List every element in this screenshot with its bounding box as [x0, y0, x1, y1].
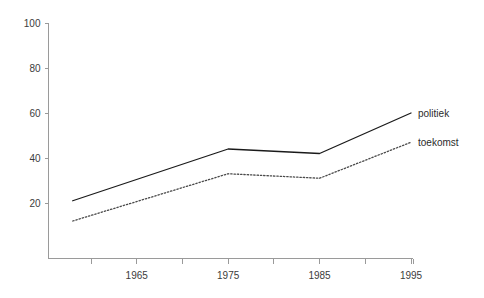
- y-tick-label: 20: [29, 198, 41, 209]
- x-tick-label: 1965: [126, 270, 149, 281]
- y-tick-label: 60: [29, 108, 41, 119]
- y-axis-ticks: 10080604020: [24, 18, 49, 209]
- series-line-toekomst: [73, 142, 411, 221]
- x-axis-group: 1965197519851995: [49, 259, 423, 281]
- x-tick-label: 1995: [400, 270, 423, 281]
- chart-container: 10080604020 1965197519851995 politiektoe…: [0, 0, 484, 298]
- x-axis-ticks: 1965197519851995: [91, 259, 423, 281]
- data-series-group: [73, 113, 411, 221]
- line-chart: 10080604020 1965197519851995 politiektoe…: [0, 0, 484, 298]
- series-label-politiek: politiek: [418, 108, 450, 119]
- y-tick-label: 40: [29, 153, 41, 164]
- y-tick-label: 100: [24, 18, 41, 29]
- y-tick-label: 80: [29, 63, 41, 74]
- series-line-politiek: [73, 113, 411, 201]
- x-tick-label: 1985: [308, 270, 331, 281]
- x-tick-label: 1975: [217, 270, 240, 281]
- y-axis-group: 10080604020: [24, 18, 49, 259]
- series-label-toekomst: toekomst: [418, 137, 459, 148]
- series-labels-group: politiektoekomst: [418, 108, 459, 148]
